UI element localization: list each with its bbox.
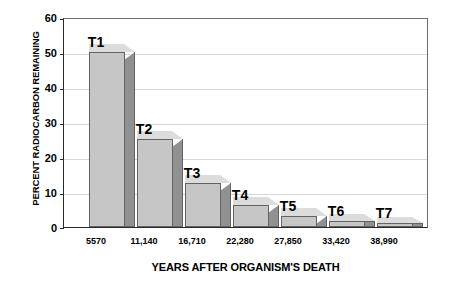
x-tick-label-2: 16,710 [166,237,218,246]
bar-front-t4 [233,205,269,227]
x-tick-label-4: 27,850 [262,237,314,246]
y-tick-label-10: 10 [31,188,57,199]
x-tick-label-1: 11,140 [118,237,170,246]
bar-front-t2 [137,139,173,227]
bar-group-t6[interactable] [329,221,375,227]
bar-front-t6 [329,221,365,227]
x-tick-label-5: 33,420 [310,237,362,246]
bar-label-t5: T5 [265,199,311,213]
y-tick-mark-50 [60,54,64,55]
y-tick-mark-40 [60,89,64,90]
bar-front-t1 [89,52,125,227]
bar-group-t1[interactable] [89,52,135,227]
y-tick-mark-0 [60,228,64,229]
bar-label-t1: T1 [73,35,119,49]
x-tick-label-6: 38,990 [358,237,410,246]
y-tick-label-40: 40 [31,83,57,94]
bar-side-t2 [172,139,183,227]
x-tick-label-0: 5570 [70,237,122,246]
y-tick-mark-60 [60,19,64,20]
radiocarbon-decay-chart: PERCENT RADIOCARBON REMAINING 60 50 40 3… [0,0,468,289]
y-tick-mark-20 [60,159,64,160]
bar-side-t1 [124,52,135,227]
bar-label-t3: T3 [169,166,215,180]
bar-side-t6 [364,221,375,227]
bar-group-t2[interactable] [137,139,183,227]
y-tick-label-0: 0 [31,223,57,234]
bar-label-t2: T2 [121,122,167,136]
bar-front-t5 [281,216,317,227]
y-tick-mark-10 [60,194,64,195]
y-tick-label-50: 50 [31,48,57,59]
y-tick-label-30: 30 [31,118,57,129]
y-tick-mark-30 [60,124,64,125]
bar-front-t3 [185,183,221,227]
x-tick-label-3: 22,280 [214,237,266,246]
y-tick-label-20: 20 [31,153,57,164]
bar-front-t7 [377,223,413,227]
bar-side-t7 [412,223,423,227]
x-axis-title: YEARS AFTER ORGANISM'S DEATH [63,261,428,273]
bar-group-t7[interactable] [377,223,423,227]
bar-label-t6: T6 [313,204,359,218]
y-tick-label-60: 60 [31,13,57,24]
bar-label-t4: T4 [217,188,263,202]
bar-label-t7: T7 [361,206,407,220]
